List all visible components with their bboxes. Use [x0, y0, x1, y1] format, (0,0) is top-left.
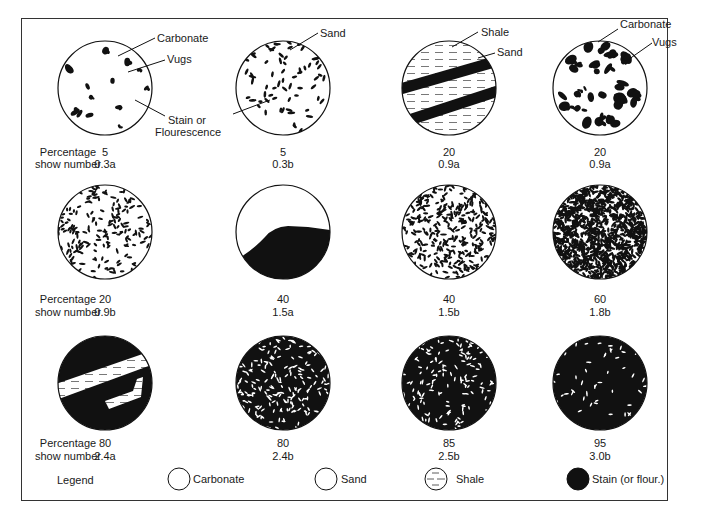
show-number-value: 0.3a — [94, 158, 115, 170]
annotation-sand: Sand — [320, 27, 346, 39]
annotation-carbonate: Carbonate — [157, 32, 208, 44]
sand-grain — [457, 338, 459, 341]
sample-80-2.4b — [236, 336, 331, 430]
percentage-value: 60 — [594, 293, 606, 305]
sample-60-1.8b — [551, 182, 650, 281]
percentage-value: 40 — [277, 293, 289, 305]
annotation-stain: Stain or — [168, 114, 206, 126]
annotation-carbonate-4: Carbonate — [620, 18, 671, 30]
stain-grain — [97, 230, 102, 232]
percentage-value: 20 — [594, 146, 606, 158]
percentage-value: 40 — [443, 293, 455, 305]
stain-grain — [440, 233, 447, 235]
sand-grain — [287, 399, 289, 403]
sample-20-0.9a — [397, 41, 501, 135]
leader-carbonate-4 — [598, 29, 618, 42]
sample-20-0.9b — [56, 185, 154, 280]
stain-grain — [96, 239, 102, 241]
sand-grain — [597, 382, 602, 384]
stain-grain — [443, 204, 445, 208]
sample-40-1.5a — [236, 185, 330, 279]
show-number-value: 2.4b — [272, 450, 293, 462]
show-number-value: 0.9a — [589, 158, 610, 170]
legend-symbol-sand — [315, 468, 337, 490]
show-number-value: 1.5a — [272, 306, 293, 318]
sand-grain — [436, 374, 438, 378]
show-number-value: 0.9a — [438, 158, 459, 170]
annotation-vugs-4: Vugs — [652, 36, 677, 48]
annotation-vugs: Vugs — [167, 53, 192, 65]
percentage-value: 95 — [594, 437, 606, 449]
sample-5-0.3a — [58, 41, 152, 135]
percentage-value: 85 — [443, 437, 455, 449]
show-number-value: 2.4a — [94, 450, 115, 462]
legend-label-sand: Sand — [341, 473, 367, 485]
percentage-value: 20 — [99, 293, 111, 305]
sample-85-2.5b — [402, 336, 496, 431]
percentage-value: 80 — [99, 437, 111, 449]
legend-label-carbonate: Carbonate — [193, 473, 244, 485]
legend-symbol-carbonate — [168, 468, 190, 490]
annotation-shale: Shale — [481, 26, 509, 38]
sample-5-0.3b — [236, 40, 330, 135]
percentage-value: 5 — [280, 146, 286, 158]
sample-20-0.9a — [553, 40, 647, 135]
sample-40-1.5b — [401, 184, 499, 279]
row-label-percentage: Percentage — [23, 146, 113, 158]
sample-80-2.4a — [53, 336, 157, 430]
show-number-value: 0.9b — [94, 306, 115, 318]
vug — [578, 93, 582, 98]
stain-grain — [489, 232, 494, 234]
percentage-value: 20 — [443, 146, 455, 158]
stain-grain — [463, 242, 469, 244]
show-number-value: 3.0b — [589, 450, 610, 462]
sand-grain — [624, 412, 626, 416]
annotation-flourescence: Flourescence — [155, 126, 221, 138]
show-number-value: 1.8b — [589, 306, 610, 318]
annotation-sand-band: Sand — [497, 46, 523, 58]
legend-title: Legend — [57, 474, 94, 486]
sample-95-3.0b — [552, 336, 649, 430]
percentage-value: 5 — [102, 146, 108, 158]
legend-label-shale: Shale — [456, 473, 484, 485]
percentage-value: 80 — [277, 437, 289, 449]
legend-label-stain: Stain (or flour.) — [592, 473, 664, 485]
legend-symbol-stain — [567, 468, 589, 490]
show-number-value: 1.5b — [438, 306, 459, 318]
show-number-value: 0.3b — [272, 158, 293, 170]
show-number-value: 2.5b — [438, 450, 459, 462]
